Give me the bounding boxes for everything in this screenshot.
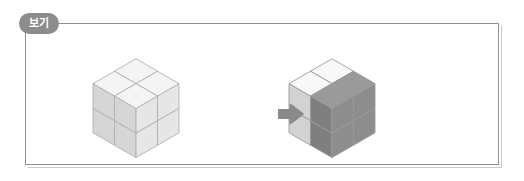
- arrow-right-icon: [277, 102, 305, 126]
- figure-stage: 보기: [0, 0, 524, 181]
- transition-arrow: [277, 102, 305, 126]
- right-cube-solid: [25, 23, 499, 165]
- figure-content-area: [25, 23, 499, 165]
- panel-shadow-bottom: [28, 167, 502, 169]
- figure-badge: 보기: [19, 13, 59, 34]
- figure-badge-label: 보기: [29, 18, 49, 29]
- panel-shadow-right: [501, 26, 503, 167]
